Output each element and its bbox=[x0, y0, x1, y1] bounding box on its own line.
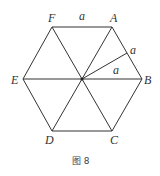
center-point bbox=[81, 78, 84, 81]
apothem-line bbox=[82, 53, 127, 79]
hexagon-diagram: F A B C D E a a a 图 8 bbox=[0, 0, 160, 176]
side-label-FA: a bbox=[79, 9, 85, 23]
vertex-label-C: C bbox=[110, 133, 119, 147]
vertex-label-A: A bbox=[109, 11, 118, 25]
vertex-label-B: B bbox=[144, 73, 152, 87]
vertex-label-D: D bbox=[44, 133, 54, 147]
side-label-AB: a bbox=[130, 43, 136, 57]
vertex-label-E: E bbox=[10, 73, 19, 87]
figure-caption: 图 8 bbox=[72, 156, 90, 166]
side-label-apothem: a bbox=[113, 63, 119, 77]
vertex-label-F: F bbox=[47, 11, 56, 25]
